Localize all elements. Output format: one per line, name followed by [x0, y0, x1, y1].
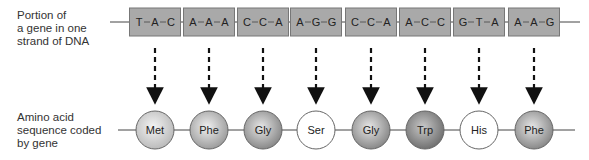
amino-acid-name: Ser	[307, 124, 324, 136]
nucleotide-base: G	[312, 16, 321, 28]
diagram-canvas: TACAAACCAAGGCCAACCGTAAAGMetPheGlySerGlyT…	[0, 0, 589, 160]
nucleotide-base: C	[437, 16, 445, 28]
amino-acid-name: Gly	[255, 124, 272, 136]
nucleotide-base: C	[167, 16, 175, 28]
nucleotide-base: T	[476, 16, 483, 28]
nucleotide-base: A	[530, 16, 538, 28]
nucleotide-base: C	[259, 16, 267, 28]
nucleotide-base: G	[328, 16, 337, 28]
amino-acid-name: Trp	[417, 124, 433, 136]
nucleotide-base: A	[405, 16, 413, 28]
amino-acid-name: Gly	[363, 124, 380, 136]
nucleotide-base: A	[189, 16, 197, 28]
amino-acid-name: Met	[146, 124, 164, 136]
nucleotide-base: C	[351, 16, 359, 28]
nucleotide-base: A	[514, 16, 522, 28]
nucleotide-base: A	[296, 16, 304, 28]
nucleotide-base: A	[221, 16, 229, 28]
nucleotide-base: T	[136, 16, 143, 28]
nucleotide-base: A	[491, 16, 499, 28]
nucleotide-base: G	[546, 16, 555, 28]
nucleotide-base: C	[421, 16, 429, 28]
dna-to-protein-diagram: Portion of a gene in one strand of DNA A…	[0, 0, 589, 160]
nucleotide-base: A	[383, 16, 391, 28]
nucleotide-base: A	[275, 16, 283, 28]
nucleotide-base: A	[151, 16, 159, 28]
nucleotide-base: G	[459, 16, 468, 28]
amino-acid-name: Phe	[199, 124, 219, 136]
nucleotide-base: C	[243, 16, 251, 28]
nucleotide-base: C	[367, 16, 375, 28]
nucleotide-base: A	[205, 16, 213, 28]
amino-acid-name: His	[471, 124, 487, 136]
amino-acid-name: Phe	[524, 124, 544, 136]
